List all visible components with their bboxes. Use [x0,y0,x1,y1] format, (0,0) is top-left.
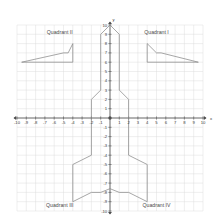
x-tick-label: -3 [80,120,84,125]
coordinate-plane-figure: -10-9-8-7-6-5-4-3-2-11234567891010987654… [0,0,217,218]
x-tick-label: -8 [34,120,38,125]
y-tick-label: -10 [101,209,108,214]
x-tick-label: -10 [14,120,21,125]
y-tick-label: -9 [103,199,107,204]
y-tick-label: -7 [103,181,107,186]
x-tick-label: -7 [43,120,47,125]
quadrant-label-IV: Quadrant IV [143,202,172,208]
x-tick-label: 10 [201,120,206,125]
x-tick-label: -4 [71,120,75,125]
x-tick-label: -9 [24,120,28,125]
y-tick-label: -3 [103,143,107,148]
cartesian-plot: -10-9-8-7-6-5-4-3-2-11234567891010987654… [0,0,217,218]
y-tick-label: 10 [103,23,108,28]
quadrant-label-III: Quadrant III [46,202,73,208]
origin-point [108,116,111,119]
x-tick-label: -5 [62,120,66,125]
x-tick-label: -2 [90,120,94,125]
y-tick-label: -1 [103,125,107,130]
y-tick-label: -5 [103,162,107,167]
quadrant-label-I: Quadrant I [144,29,169,35]
quadrant-label-II: Quadrant II [47,29,73,35]
x-tick-label: -6 [52,120,56,125]
y-tick-label: -6 [103,171,107,176]
y-tick-label: -4 [103,153,107,158]
y-tick-label: -2 [103,134,107,139]
y-tick-label: -8 [103,190,107,195]
